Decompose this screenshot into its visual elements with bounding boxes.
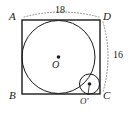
- vertex-label-a: A: [9, 11, 16, 22]
- center-label-o-prime: O': [80, 97, 88, 106]
- geometry-canvas: [0, 0, 131, 116]
- vertex-label-c: C: [103, 90, 110, 101]
- measurement-label-top: 18: [55, 5, 65, 15]
- measure-arc-right: [103, 22, 108, 92]
- measurement-label-right: 16: [113, 50, 123, 60]
- vertex-label-d: D: [103, 11, 111, 22]
- center-dot-o-prime: [88, 82, 92, 86]
- center-label-o: O: [52, 60, 59, 70]
- geometry-figure: A D B C 18 16 O O': [0, 0, 131, 116]
- vertex-label-b: B: [9, 90, 16, 101]
